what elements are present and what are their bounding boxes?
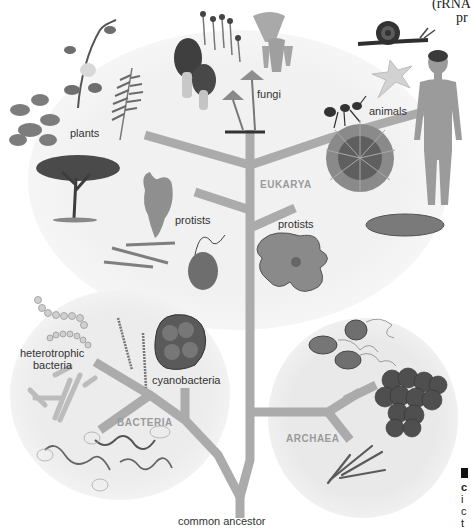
common-ancestor-label: common ancestor (178, 515, 265, 527)
plants-label: plants (70, 127, 99, 139)
bacteria-label: BACTERIA (117, 417, 173, 428)
fungi-label: fungi (257, 88, 281, 100)
plant-illustrations (9, 20, 143, 223)
heterotrophic-bacteria-label-line2: bacteria (33, 359, 72, 371)
animals-label: animals (369, 105, 407, 117)
caption-line: c (461, 481, 468, 493)
archaea-label: ARCHAEA (286, 433, 340, 444)
cropped-caption-bottom-right: c i c t (461, 468, 468, 528)
protists-right-label: protists (278, 218, 313, 230)
bacteria-illustrations (30, 297, 206, 492)
protists-left-label: protists (175, 214, 210, 226)
caption-line: t (461, 517, 468, 528)
archaea-illustrations (309, 319, 447, 483)
cropped-text-top-right-2: pr (456, 10, 468, 26)
caption-line: i (461, 493, 468, 505)
caption-line: c (461, 505, 468, 517)
caption-marker (461, 468, 468, 478)
heterotrophic-bacteria-label-line1: heterotrophic (20, 347, 84, 359)
cyanobacteria-label: cyanobacteria (152, 374, 221, 386)
fungi-illustrations (174, 11, 293, 132)
eukarya-label: EUKARYA (260, 179, 312, 190)
